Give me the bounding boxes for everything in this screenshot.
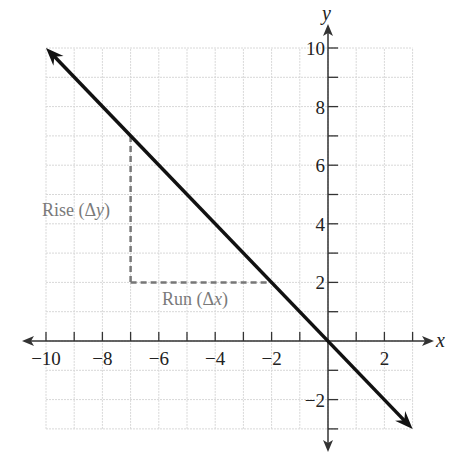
data-line [46,48,413,429]
x-tick-label: −2 [261,348,281,369]
x-tick-label: −4 [205,348,226,369]
y-axis-label: y [320,2,331,25]
y-tick-label: 8 [316,97,326,118]
x-tick-label: −6 [149,348,169,369]
rise-label: Rise (Δy) [42,200,110,221]
x-tick-label: −10 [31,348,61,369]
x-tick-label: −8 [92,348,112,369]
y-tick-label: 2 [316,272,326,293]
y-tick-label: −2 [305,390,325,411]
y-tick-label: 6 [316,155,326,176]
x-tick-label: 2 [380,348,390,369]
slope-chart: −10−8−6−4−22−2246810 x y Rise (Δy) Run (… [0,0,470,471]
x-axis-label: x [435,329,445,351]
y-tick-label: 4 [316,214,326,235]
run-label: Run (Δx) [162,289,228,310]
y-tick-label: 10 [306,38,325,59]
